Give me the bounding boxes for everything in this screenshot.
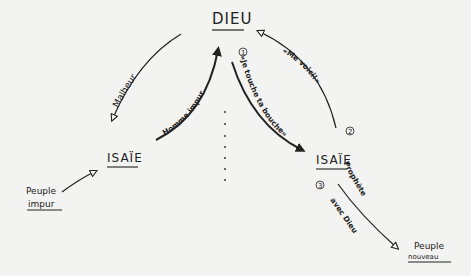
step-2-number: 2 (348, 128, 352, 136)
node-peuple-impur-line2: impur (28, 199, 55, 209)
arrow-malheur (113, 34, 181, 118)
node-dieu: DIEU (212, 10, 252, 28)
label-homme-impur: Homme impur (161, 89, 206, 137)
label-prophete-line2: avec Dieu (328, 196, 359, 235)
label-prophete-line1: Prophète (342, 160, 369, 198)
label-malheur: Malheur (111, 72, 139, 109)
node-peuple-nouveau-line2: nouveau (408, 253, 438, 261)
diagram-canvas: DIEU Malheur Homme impur 1 «Je touche ta… (0, 0, 471, 276)
node-peuple-impur-line1: Peuple (26, 186, 57, 196)
arrow-homme-impur (156, 50, 218, 140)
dotted-separator (224, 111, 226, 181)
arrow-peuple-impur (62, 172, 94, 192)
step-3-number: 3 (318, 182, 322, 190)
node-isaie-left: ISAÏE (107, 150, 143, 165)
label-me-voici: «Me voici!» (281, 46, 323, 86)
node-peuple-nouveau-line1: Peuple (414, 241, 445, 251)
